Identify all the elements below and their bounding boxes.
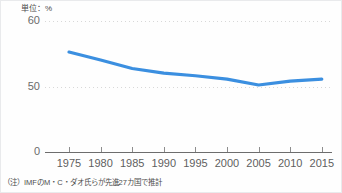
y-axis-tick-label-50: 50 [14, 80, 40, 92]
x-axis-tick-1980 [101, 147, 102, 152]
x-axis-label-1975: 1975 [54, 157, 84, 169]
data-series-line [69, 52, 322, 85]
gridline-50 [45, 87, 332, 88]
frame-border-bottom [0, 192, 342, 193]
x-axis-baseline [45, 152, 332, 153]
x-axis-tick-1985 [132, 147, 133, 152]
chart-container: 単位：% 60 50 0 197519801985199019952000200… [0, 0, 342, 193]
x-axis-label-2010: 2010 [275, 157, 305, 169]
x-axis-tick-1995 [195, 147, 196, 152]
x-axis-label-1990: 1990 [149, 157, 179, 169]
source-note: （注）IMFのM・C・ダオ氏らが先進27カ国で推計 [3, 176, 162, 187]
gridline-60 [45, 21, 332, 22]
x-axis-tick-1990 [164, 147, 165, 152]
x-axis-label-2000: 2000 [212, 157, 242, 169]
frame-border-top [0, 0, 342, 1]
x-axis-tick-2005 [259, 147, 260, 152]
x-axis-tick-2015 [322, 147, 323, 152]
x-axis-tick-2000 [227, 147, 228, 152]
x-axis-label-1980: 1980 [86, 157, 116, 169]
x-axis-tick-1975 [69, 147, 70, 152]
y-axis-tick-label-0: 0 [14, 145, 40, 157]
x-axis-label-1995: 1995 [180, 157, 210, 169]
x-axis-label-2015: 2015 [307, 157, 337, 169]
y-axis-tick-label-60: 60 [14, 14, 40, 26]
unit-label: 単位：% [21, 2, 52, 13]
x-axis-label-1985: 1985 [117, 157, 147, 169]
x-axis-label-2005: 2005 [244, 157, 274, 169]
x-axis-tick-2010 [290, 147, 291, 152]
frame-border-left [0, 0, 1, 193]
